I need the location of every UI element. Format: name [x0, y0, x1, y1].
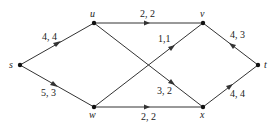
node-label-u: u [90, 9, 95, 19]
edge-label-u-x: 3, 2 [157, 86, 172, 96]
arrow-icon [168, 45, 175, 51]
node-label-s: s [9, 60, 13, 70]
node-label-t: t [264, 60, 267, 70]
node-u [92, 21, 96, 25]
edge-label-w-v: 1,1 [158, 34, 171, 44]
edge-label-x-t: 4, 4 [230, 89, 245, 99]
edge-label-u-v: 2, 2 [140, 9, 155, 19]
flow-network-diagram: s u w v x t 4, 4 5, 3 2, 2 1,1 3, 2 2, 2… [0, 0, 273, 129]
diagram-canvas [0, 0, 273, 129]
node-label-v: v [200, 9, 204, 19]
arrow-icon [229, 43, 236, 49]
edge-label-s-w: 5, 3 [41, 88, 56, 98]
edge-label-s-u: 4, 4 [42, 32, 57, 42]
node-label-w: w [89, 110, 96, 120]
edge-label-w-x: 2, 2 [141, 112, 156, 122]
arrow-icon [144, 105, 150, 110]
edge-label-v-t: 4, 3 [230, 30, 245, 40]
node-t [256, 63, 260, 67]
node-label-x: x [200, 110, 204, 120]
node-s [18, 63, 22, 67]
arrow-icon [144, 21, 150, 26]
node-v [201, 21, 205, 25]
